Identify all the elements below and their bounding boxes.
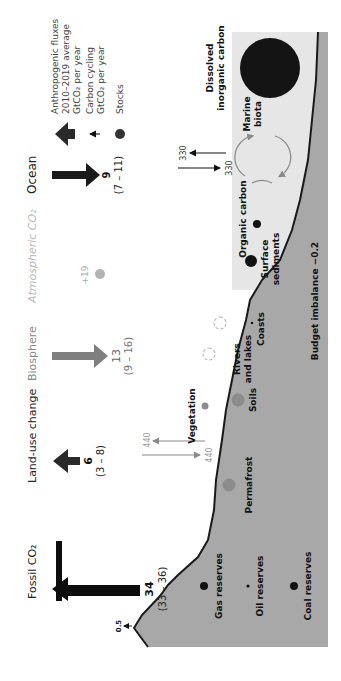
landuse-up-arrow bbox=[53, 449, 80, 473]
budget-imbalance-label: Budget imbalance −0.2 bbox=[310, 242, 320, 360]
permafrost-dot bbox=[223, 479, 236, 492]
landuse-range: (3 – 8) bbox=[95, 445, 106, 477]
surface-sediments-label-2: sediments bbox=[271, 233, 281, 286]
marine-biota-label-2: biota bbox=[253, 101, 263, 127]
soils-label: Soils bbox=[248, 388, 258, 412]
legend-stocks-label: Stocks bbox=[115, 84, 125, 114]
organic-carbon-dot bbox=[253, 220, 261, 228]
gas-reserves-dot bbox=[200, 582, 208, 590]
header-fossil: Fossil CO₂ bbox=[26, 545, 39, 599]
header-landuse: Land-use change bbox=[26, 389, 39, 483]
legend-anthropogenic-line3: GtCO₂ per year bbox=[72, 45, 82, 114]
permafrost-label: Permafrost bbox=[244, 456, 254, 513]
land-cycling-up-value: 440 bbox=[143, 432, 152, 447]
rivers-lakes-label-2: and lakes bbox=[243, 335, 253, 383]
soils-dot bbox=[232, 394, 245, 407]
marine-biota-label-1: Marine bbox=[242, 96, 252, 131]
rivers-lakes-label-1: Rivers bbox=[232, 343, 242, 375]
carbon-cycle-diagram: Fossil CO₂ Land-use change Biosphere Atm… bbox=[0, 0, 341, 681]
legend-anthropogenic-line2: 2010–2019 average bbox=[61, 24, 71, 114]
surface-sediments-label-1: Surface bbox=[260, 240, 270, 279]
fossil-up-arrow bbox=[52, 577, 140, 601]
coal-reserves-dot bbox=[290, 582, 298, 590]
legend-cycling-line2: GtCO₂ per year bbox=[96, 45, 106, 114]
coasts-label: Coasts bbox=[256, 312, 266, 346]
legend-anthropogenic-arrow bbox=[55, 122, 75, 146]
dic-label-1: Dissolved bbox=[205, 44, 215, 93]
rivers-lakes-outline-1 bbox=[203, 348, 215, 360]
oil-reserves-dot bbox=[246, 584, 249, 587]
ocean-cycling-up-value: 330 bbox=[179, 145, 188, 160]
header-atmospheric: Atmospheric CO₂ bbox=[26, 209, 39, 304]
legend-anthropogenic-line1: Anthropogenic fluxes bbox=[50, 18, 60, 114]
ocean-down-arrow bbox=[52, 163, 100, 187]
legend-stock-dot bbox=[115, 129, 125, 139]
ocean-range: (7 – 11) bbox=[113, 156, 124, 194]
coasts-dot bbox=[251, 322, 253, 324]
organic-carbon-label: Organic carbon bbox=[238, 180, 248, 257]
land-cycling-down-value: 440 bbox=[205, 447, 214, 462]
biosphere-value: 13 bbox=[110, 349, 123, 363]
ocean-value: 9 bbox=[101, 171, 112, 178]
header-ocean: Ocean bbox=[25, 156, 39, 194]
rivers-lakes-outline-2 bbox=[214, 317, 226, 329]
vegetation-dot bbox=[202, 403, 209, 410]
fossil-value: 34 bbox=[143, 581, 156, 597]
carbon-cycle-figure: Fossil CO₂ Land-use change Biosphere Atm… bbox=[0, 0, 341, 681]
fossil-range: (33 – 36) bbox=[157, 567, 168, 612]
volcanic-value: 0.5 bbox=[115, 620, 123, 633]
legend: Anthropogenic fluxes 2010–2019 average G… bbox=[50, 18, 125, 146]
ocean-cycling-down-value: 330 bbox=[225, 160, 234, 175]
dissolved-inorganic-carbon-dot bbox=[240, 38, 300, 98]
landuse-value: 6 bbox=[82, 457, 95, 465]
atmospheric-value: +19 bbox=[80, 265, 90, 284]
vegetation-label: Vegetation bbox=[187, 388, 197, 443]
biosphere-down-arrow bbox=[52, 344, 108, 368]
legend-cycling-line1: Carbon cycling bbox=[85, 47, 95, 114]
oil-reserves-label: Oil reserves bbox=[255, 556, 265, 617]
gas-reserves-label: Gas reserves bbox=[214, 553, 224, 619]
biosphere-range: (9 – 16) bbox=[123, 337, 134, 375]
header-biosphere: Biosphere bbox=[26, 326, 39, 381]
dic-label-2: inorganic carbon bbox=[216, 25, 226, 110]
coal-reserves-label: Coal reserves bbox=[303, 552, 313, 621]
atmospheric-stock-dot bbox=[95, 269, 105, 279]
